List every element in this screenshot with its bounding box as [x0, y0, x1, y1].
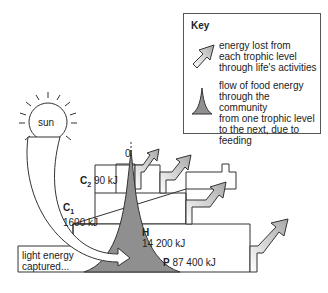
arrow-icon [190, 42, 220, 82]
sun-label: sun [38, 117, 54, 128]
c1-label: C11600 kJ [63, 202, 98, 228]
key-box: Key energy lost from each trophic level … [183, 13, 321, 134]
key-item-food-flow: flow of food energy through the communit… [219, 80, 320, 146]
top-level-label: 0 [125, 148, 131, 159]
h-label: H14 200 kJ [142, 227, 185, 249]
energy-loss-arrow-c2 [135, 149, 159, 189]
spike-icon [190, 84, 220, 124]
p-label: P 87 400 kJ [163, 257, 216, 268]
energy-loss-arrow-h [186, 182, 226, 224]
key-title: Key [191, 20, 209, 31]
c2-label: C2 90 kJ [80, 175, 118, 190]
energy-loss-arrow-p [250, 219, 288, 272]
light-energy-label: light energy captured... [22, 250, 74, 272]
key-item-energy-lost: energy lost from each trophic level thro… [219, 40, 317, 73]
